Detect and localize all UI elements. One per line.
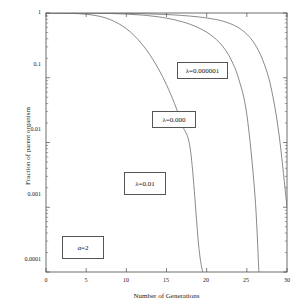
plot-area: [0, 0, 304, 304]
y-tick-label: 1: [14, 9, 41, 15]
y-tick-label: 0.0001: [10, 256, 41, 262]
x-tick-label: 10: [116, 277, 136, 283]
annotation-label: λ=0.000001: [177, 62, 228, 79]
annotation-label: α=2: [62, 236, 104, 259]
x-tick-label: 15: [156, 277, 176, 283]
curve-1: [46, 13, 203, 272]
x-axis-title: Number of Generations: [46, 292, 287, 300]
curve-2: [46, 13, 259, 272]
x-tick-label: 5: [76, 277, 96, 283]
tick-marks: [46, 13, 287, 272]
data-curves: [46, 13, 287, 272]
x-tick-label: 30: [277, 277, 297, 283]
annotation-label: λ=0.000: [152, 111, 196, 128]
y-axis-title: Fraction of parent organism: [24, 66, 32, 226]
chart-figure: 10.10.010.0010.0001 051015202530 Fractio…: [0, 0, 304, 304]
x-tick-label: 20: [196, 277, 216, 283]
axes-frame: [46, 13, 287, 272]
x-tick-label: 25: [236, 277, 256, 283]
annotation-label: λ=0.01: [124, 172, 166, 195]
x-tick-label: 0: [36, 277, 56, 283]
